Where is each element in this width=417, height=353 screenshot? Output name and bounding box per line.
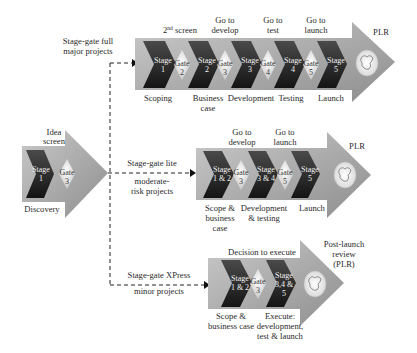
arrowhead-lite-icon xyxy=(190,169,196,177)
svg-text:launch: launch xyxy=(274,137,298,147)
svg-text:test: test xyxy=(267,25,280,35)
lite-scope-business-label: Scope & xyxy=(205,203,235,213)
svg-text:1: 1 xyxy=(161,65,165,74)
svg-text:(PLR): (PLR) xyxy=(333,259,355,269)
lite-go-launch-label: Go to xyxy=(275,127,294,137)
xpress-plr-label: Post-launch xyxy=(324,239,365,249)
lite-development-testing-label: Development xyxy=(241,203,288,213)
svg-text:case: case xyxy=(213,223,228,233)
svg-text:4: 4 xyxy=(291,65,295,74)
svg-text:Stage: Stage xyxy=(213,165,231,174)
svg-text:3: 3 xyxy=(65,177,69,186)
svg-text:2: 2 xyxy=(180,68,184,77)
svg-text:Gate: Gate xyxy=(217,59,233,68)
svg-text:Stage: Stage xyxy=(301,165,319,174)
svg-text:5: 5 xyxy=(282,289,286,298)
svg-text:business case: business case xyxy=(208,321,254,331)
svg-text:develop: develop xyxy=(228,137,255,147)
full-stage-gate-track: Stage-gate full major projects Stage 1 S… xyxy=(63,15,395,113)
svg-text:Stage: Stage xyxy=(284,56,302,65)
svg-text:5: 5 xyxy=(283,177,287,186)
discovery-block: Stage 1 Gate 3 Idea screen Discovery xyxy=(22,127,108,219)
discovery-label: Discovery xyxy=(24,204,60,214)
plr-review-icon xyxy=(356,50,378,76)
svg-text:Gate: Gate xyxy=(277,168,293,177)
svg-text:develop: develop xyxy=(211,25,238,35)
svg-text:Stage: Stage xyxy=(257,165,275,174)
full-launch-label: Launch xyxy=(318,93,344,103)
svg-text:5: 5 xyxy=(334,65,338,74)
full-testing-label: Testing xyxy=(278,93,304,103)
full-gate-4-top-label: Go to xyxy=(263,15,282,25)
lite-plr-review-icon xyxy=(334,162,356,188)
lite-go-develop-label: Go to xyxy=(232,127,251,137)
svg-text:5: 5 xyxy=(308,174,312,183)
svg-text:Stage: Stage xyxy=(327,56,345,65)
svg-text:4: 4 xyxy=(266,68,270,77)
xpress-scope-business-label: Scope & xyxy=(216,311,246,321)
svg-text:Stage: Stage xyxy=(275,271,293,280)
svg-text:2: 2 xyxy=(205,65,209,74)
xpress-execute-label: Execute: xyxy=(265,311,295,321)
full-gate-2-top-label: 2nd screen xyxy=(163,25,198,35)
full-gate-5-top-label: Go to xyxy=(306,15,325,25)
svg-text:risk projects: risk projects xyxy=(131,186,174,196)
lite-plr-label: PLR xyxy=(349,141,365,151)
svg-text:review: review xyxy=(332,249,356,259)
svg-text:case: case xyxy=(201,103,216,113)
svg-text:major projects: major projects xyxy=(63,46,113,56)
xpress-plr-review-icon xyxy=(304,271,326,297)
svg-text:screen: screen xyxy=(43,136,66,146)
discovery-gate-label: Gate xyxy=(59,168,75,177)
svg-text:Gate: Gate xyxy=(233,168,249,177)
lite-track-label: Stage-gate lite xyxy=(127,158,177,168)
svg-text:1 & 2: 1 & 2 xyxy=(213,174,231,183)
discovery-stage-label: Stage xyxy=(32,165,50,174)
svg-text:test & launch: test & launch xyxy=(257,331,304,341)
svg-text:moderate-: moderate- xyxy=(135,176,170,186)
full-scoping-label: Scoping xyxy=(144,93,173,103)
xpress-stage-gate-track: Stage-gate XPress minor projects Stage 1… xyxy=(128,239,365,341)
svg-text:3: 3 xyxy=(239,177,243,186)
svg-text:3: 3 xyxy=(248,65,252,74)
svg-text:3,4 &: 3,4 & xyxy=(275,280,294,289)
full-business-case-label: Business xyxy=(193,93,224,103)
svg-text:3 & 4: 3 & 4 xyxy=(257,174,275,183)
svg-text:launch: launch xyxy=(305,25,329,35)
full-plr-label: PLR xyxy=(373,27,389,37)
svg-text:Stage: Stage xyxy=(241,56,259,65)
full-track-label: Stage-gate full xyxy=(63,36,114,46)
svg-text:Gate: Gate xyxy=(303,59,319,68)
xpress-track-label: Stage-gate XPress xyxy=(128,270,191,280)
svg-text:5: 5 xyxy=(309,68,313,77)
svg-text:3: 3 xyxy=(223,68,227,77)
lite-launch-label: Launch xyxy=(299,203,325,213)
xpress-decision-label: Decision to execute xyxy=(228,247,296,257)
svg-text:Stage: Stage xyxy=(198,56,216,65)
svg-text:1 & 2: 1 & 2 xyxy=(231,283,249,292)
svg-text:Gate: Gate xyxy=(250,277,266,286)
svg-text:Stage: Stage xyxy=(154,56,172,65)
svg-text:Gate: Gate xyxy=(260,59,276,68)
svg-text:Stage: Stage xyxy=(231,274,249,283)
svg-text:& testing: & testing xyxy=(248,213,280,223)
svg-text:development,: development, xyxy=(257,321,304,331)
svg-text:business: business xyxy=(205,213,235,223)
svg-text:3: 3 xyxy=(256,286,260,295)
svg-text:minor projects: minor projects xyxy=(134,286,185,296)
full-development-label: Development xyxy=(228,93,275,103)
full-gate-3-top-label: Go to xyxy=(215,15,234,25)
stage-gate-diagram: Stage 1 Gate 3 Idea screen Discovery Sta… xyxy=(0,0,417,353)
svg-text:1: 1 xyxy=(39,174,43,183)
svg-text:Gate: Gate xyxy=(174,59,190,68)
lite-stage-gate-track: Stage-gate lite moderate- risk projects … xyxy=(127,127,371,233)
